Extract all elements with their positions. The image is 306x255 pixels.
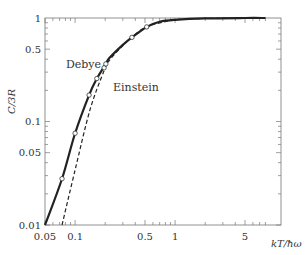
series	[45, 18, 265, 225]
x-axis-title: kT/ħω	[271, 238, 302, 249]
plot-frame	[45, 18, 281, 225]
x-tick-label: 0.5	[137, 231, 153, 242]
data-point-marker	[87, 93, 91, 97]
y-tick-label: 0.5	[25, 44, 41, 55]
y-tick-label: 0.05	[19, 147, 41, 158]
y-tick-label: 1	[35, 13, 41, 24]
x-tick-label: 0.05	[34, 231, 56, 242]
debye-label: Debye	[66, 58, 101, 71]
debye-curve	[45, 18, 265, 225]
data-point-marker	[73, 131, 77, 135]
einstein-curve	[62, 18, 265, 225]
y-axis-title: C/3R	[6, 89, 17, 114]
einstein-label: Einstein	[113, 81, 159, 94]
data-markers	[60, 25, 149, 181]
data-point-marker	[60, 177, 64, 181]
axes	[45, 18, 281, 225]
x-tick-label: 0.1	[67, 231, 83, 242]
data-point-marker	[95, 76, 99, 80]
data-point-marker	[130, 35, 134, 39]
data-point-marker	[145, 25, 149, 29]
x-tick-label: 5	[242, 231, 248, 242]
specific-heat-chart: 0.050.10.5150.010.050.10.51 Debye Einste…	[0, 0, 306, 255]
y-tick-label: 0.01	[19, 220, 41, 231]
ticks: 0.050.10.5150.010.050.10.51	[19, 13, 281, 243]
x-tick-label: 1	[172, 231, 178, 242]
data-point-marker	[104, 62, 108, 66]
y-tick-label: 0.1	[25, 116, 41, 127]
